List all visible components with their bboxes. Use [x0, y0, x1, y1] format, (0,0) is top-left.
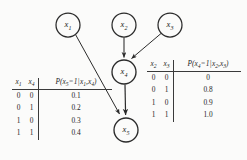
node-x5: [114, 118, 138, 142]
cell-probability: 0.3: [40, 115, 112, 128]
node-x4: [112, 60, 136, 84]
table-row: 1 1 1.0: [147, 109, 241, 122]
cpt-header-var2: x4: [25, 78, 39, 89]
table-row: 1 0 0.9: [147, 97, 241, 110]
node-x1: [56, 13, 80, 37]
edge-x3-to-x4: [132, 34, 162, 59]
node-x3: [158, 13, 182, 37]
cell-probability: 1.0: [175, 109, 241, 122]
cell-var1: 0: [147, 84, 160, 97]
cpt-header-var2: x3: [160, 60, 174, 71]
cell-var1: 1: [12, 115, 25, 128]
cell-var2: 0: [160, 97, 174, 110]
cell-probability: 0.2: [40, 102, 112, 115]
table-row: 1 1 0.4: [12, 127, 112, 140]
table-row: 0 1 0.8: [147, 84, 241, 97]
cell-probability: 0.9: [175, 97, 241, 110]
cell-var2: 0: [160, 71, 174, 84]
cpt-table-x5: x1 x4 P(x5=1|x1,x4) 0 0 0.1 0 1 0.2 1 0: [12, 78, 112, 140]
table-row: 0 1 0.2: [12, 102, 112, 115]
cell-var2: 0: [25, 89, 39, 102]
cell-probability: 0: [175, 71, 241, 84]
cpt-header-probability: P(x5=1|x1,x4): [40, 78, 112, 89]
cell-var2: 0: [25, 115, 39, 128]
cell-var1: 0: [147, 71, 160, 84]
node-x2: [112, 13, 136, 37]
cpt-header-var1: x1: [12, 78, 25, 89]
cell-probability: 0.4: [40, 127, 112, 140]
cell-var2: 1: [160, 84, 174, 97]
cpt-header-probability: P(x4=1|x2,x3): [175, 60, 241, 71]
cpt-header-row: x2 x3 P(x4=1|x2,x3): [147, 60, 241, 71]
cell-var1: 1: [147, 97, 160, 110]
cpt-table-x4: x2 x3 P(x4=1|x2,x3) 0 0 0 0 1 0.8 1 0: [147, 60, 241, 122]
cell-var1: 0: [12, 89, 25, 102]
cell-var1: 0: [12, 102, 25, 115]
cell-var2: 1: [25, 102, 39, 115]
bayesian-network-figure: x1 x2 x3 x4 x5 x1 x4 P(x5=1|x1,x4) 0 0 0…: [0, 0, 247, 160]
table-row: 1 0 0.3: [12, 115, 112, 128]
cell-var1: 1: [12, 127, 25, 140]
table-row: 0 0 0: [147, 71, 241, 84]
cell-probability: 0.8: [175, 84, 241, 97]
cpt-header-var1: x2: [147, 60, 160, 71]
cell-var1: 1: [147, 109, 160, 122]
table-row: 0 0 0.1: [12, 89, 112, 102]
edge-x4-to-x5: [125, 85, 126, 116]
cpt-header-row: x1 x4 P(x5=1|x1,x4): [12, 78, 112, 89]
cell-var2: 1: [25, 127, 39, 140]
cell-probability: 0.1: [40, 89, 112, 102]
cell-var2: 1: [160, 109, 174, 122]
